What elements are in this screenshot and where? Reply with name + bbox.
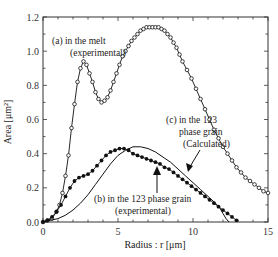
data-point (266, 191, 270, 195)
data-point (130, 39, 134, 43)
data-point (82, 174, 86, 178)
data-point (73, 102, 77, 106)
data-point (76, 80, 80, 84)
y-axis-title: Area [μm²] (2, 100, 13, 145)
data-point (248, 179, 252, 183)
annotation-a: (a) in the melt (experimental) (52, 36, 126, 59)
data-point (103, 99, 107, 103)
x-tick-label: 0 (41, 226, 46, 237)
y-tick-label: 0.8 (27, 80, 40, 91)
annotation-b-line2: (experimental) (115, 206, 171, 217)
data-point (136, 32, 140, 36)
x-tick-label: 10 (188, 226, 198, 237)
data-point (133, 36, 137, 40)
data-point (109, 89, 113, 93)
x-tick-label: 15 (263, 226, 273, 237)
data-point (149, 159, 153, 163)
data-point (64, 174, 68, 178)
data-point (91, 80, 95, 84)
y-tick-label: 1.0 (27, 46, 40, 57)
chart: 0510150.00.20.40.60.81.01.2 (a) in the m… (0, 0, 278, 257)
x-tick-label: 5 (116, 226, 121, 237)
data-point (70, 126, 74, 130)
data-point (226, 212, 230, 216)
data-point (82, 60, 86, 64)
data-point (166, 32, 170, 36)
data-point (136, 153, 140, 157)
y-tick-label: 0.6 (27, 114, 40, 125)
data-point (226, 152, 230, 156)
data-point (104, 153, 108, 157)
data-point (95, 164, 99, 168)
data-point (55, 210, 59, 214)
y-tick-label: 1.2 (27, 12, 40, 23)
data-point (88, 72, 92, 76)
data-point (154, 160, 158, 164)
data-point (64, 194, 68, 198)
data-point (199, 191, 203, 195)
data-point (97, 97, 101, 101)
data-point (257, 186, 261, 190)
data-point (194, 87, 198, 91)
y-tick-label: 0.0 (27, 217, 40, 228)
data-point (253, 183, 257, 187)
x-axis-title: Radius : r [μm] (124, 239, 185, 250)
data-point (67, 154, 71, 158)
data-point (127, 44, 131, 48)
data-point (172, 41, 176, 45)
data-point (190, 184, 194, 188)
data-point (185, 68, 189, 72)
data-point (113, 148, 117, 152)
data-point (235, 218, 239, 222)
data-point (131, 152, 135, 156)
data-point (115, 72, 119, 76)
data-point (68, 186, 72, 190)
data-point (185, 181, 189, 185)
data-point (176, 174, 180, 178)
data-point (181, 177, 185, 181)
data-point (163, 29, 167, 33)
data-point (244, 176, 248, 180)
data-point (230, 159, 234, 163)
y-tick-label: 0.2 (27, 182, 40, 193)
data-point (79, 66, 83, 70)
data-point (73, 179, 77, 183)
data-point (86, 172, 90, 176)
data-point (140, 155, 144, 159)
data-point (190, 77, 194, 81)
annotation-b-line1: (b) in the 123 phase grain (94, 194, 192, 205)
data-point (91, 169, 95, 173)
data-point (235, 166, 239, 170)
data-point (100, 159, 104, 163)
data-point (145, 157, 149, 161)
data-point (203, 107, 207, 111)
y-tick-label: 0.4 (27, 148, 40, 159)
data-point (163, 165, 167, 169)
data-point (94, 90, 98, 94)
data-point (158, 162, 162, 166)
annotation-c-line1: (c) in the 123 (166, 115, 217, 126)
annotation-c-line2: phase grain (179, 127, 223, 137)
data-point (61, 191, 65, 195)
data-point (172, 171, 176, 175)
data-point (262, 189, 266, 193)
data-point (175, 46, 179, 50)
data-point (85, 63, 89, 67)
data-point (181, 60, 185, 64)
annotation-b: (b) in the 123 phase grain (experimental… (94, 166, 192, 217)
data-point (106, 95, 110, 99)
data-point (239, 171, 243, 175)
data-point (169, 36, 173, 40)
data-point (59, 203, 63, 207)
data-point (112, 80, 116, 84)
data-point (109, 150, 113, 154)
annotation-a-line2: (experimental) (70, 48, 126, 59)
annotation-b-arrowhead-icon (153, 166, 161, 175)
data-point (50, 215, 54, 219)
data-point (194, 188, 198, 192)
data-point (199, 97, 203, 101)
data-point (167, 167, 171, 171)
annotation-c: (c) in the 123 phase grain (Calculated) (166, 115, 230, 172)
data-point (77, 176, 81, 180)
data-point (118, 63, 122, 67)
